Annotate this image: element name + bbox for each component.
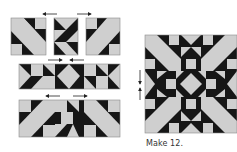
finished-block (145, 35, 237, 133)
middle-row-unit (19, 64, 120, 89)
make-count-caption: Make 12. (146, 139, 183, 148)
quilt-assembly-diagram (0, 0, 237, 152)
top-right-unit (86, 18, 120, 55)
bottom-row-unit (19, 100, 120, 137)
top-left-unit (11, 18, 46, 55)
top-center-unit (54, 18, 78, 55)
